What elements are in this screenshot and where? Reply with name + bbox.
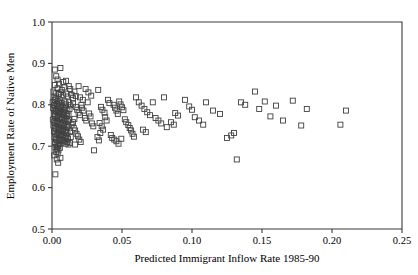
data-point-marker <box>290 98 295 103</box>
y-axis-title: Employment Rate of Native Men <box>4 52 16 199</box>
x-axis-title: Predicted Immigrant Inflow Rate 1985-90 <box>134 252 320 264</box>
data-point-marker <box>72 116 77 121</box>
x-tick-label: 0.00 <box>43 235 61 246</box>
x-tick-label: 0.10 <box>183 235 201 246</box>
data-point-marker <box>134 95 139 100</box>
data-point-marker <box>85 100 90 105</box>
y-tick-label: 0.6 <box>32 182 45 193</box>
data-point-markers <box>50 65 348 176</box>
x-tick-labels: 0.000.050.100.150.200.25 <box>43 235 411 246</box>
data-point-marker <box>218 111 223 116</box>
x-tick-label: 0.05 <box>113 235 131 246</box>
chart-canvas: 0.000.050.100.150.200.25 0.50.60.70.80.9… <box>0 0 418 275</box>
data-point-marker <box>257 106 262 111</box>
data-point-marker <box>96 138 101 143</box>
y-tick-label: 0.9 <box>32 58 45 69</box>
y-tick-label: 0.5 <box>32 224 45 235</box>
data-point-marker <box>274 103 279 108</box>
y-tick-label: 0.8 <box>32 99 45 110</box>
data-point-marker <box>96 87 101 92</box>
data-point-marker <box>299 123 304 128</box>
x-tick-label: 0.15 <box>253 235 271 246</box>
scatter-plot-figure: 0.000.050.100.150.200.25 0.50.60.70.80.9… <box>0 0 418 275</box>
y-tick-label: 1.0 <box>32 17 45 28</box>
y-tick-labels: 0.50.60.70.80.91.0 <box>32 17 45 235</box>
data-point-marker <box>162 95 167 100</box>
x-tick-label: 0.25 <box>393 235 411 246</box>
data-point-marker <box>183 97 188 102</box>
data-point-marker <box>204 100 209 105</box>
data-point-marker <box>56 160 61 165</box>
data-point-marker <box>58 65 63 70</box>
data-point-marker <box>106 97 111 102</box>
data-point-marker <box>164 125 169 130</box>
data-point-marker <box>338 122 343 127</box>
data-point-marker <box>73 142 78 147</box>
data-point-marker <box>54 74 59 79</box>
data-point-marker <box>92 148 97 153</box>
data-point-marker <box>253 89 258 94</box>
data-point-marker <box>262 99 267 104</box>
data-point-marker <box>150 100 155 105</box>
data-point-marker <box>52 67 57 72</box>
x-tick-label: 0.20 <box>323 235 341 246</box>
data-point-marker <box>234 157 239 162</box>
data-point-marker <box>304 106 309 111</box>
data-point-marker <box>76 84 81 89</box>
data-point-marker <box>281 118 286 123</box>
data-point-marker <box>104 118 109 123</box>
y-tick-label: 0.7 <box>32 141 45 152</box>
data-point-marker <box>268 114 273 119</box>
data-point-marker <box>211 108 216 113</box>
data-point-marker <box>119 136 124 141</box>
data-point-marker <box>115 111 120 116</box>
data-point-marker <box>53 172 58 177</box>
data-point-marker <box>344 108 349 113</box>
